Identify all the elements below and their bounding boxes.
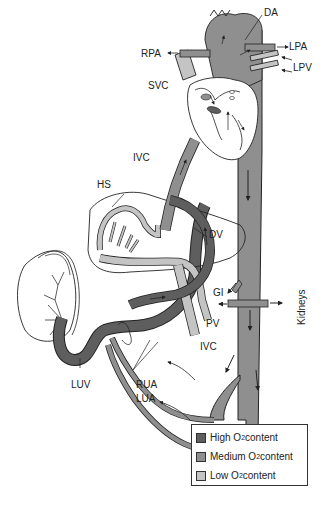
- label-lpa: LPA: [289, 42, 307, 52]
- label-dv: DV: [209, 230, 223, 240]
- label-rua: RUA: [136, 380, 157, 390]
- legend-suffix: content: [245, 432, 278, 443]
- placenta: [18, 251, 80, 342]
- legend: High O2 content Medium O2 content Low O2…: [191, 424, 308, 486]
- legend-suffix: content: [243, 470, 276, 481]
- label-rpa: RPA: [141, 49, 161, 59]
- legend-label: Medium O: [210, 451, 256, 462]
- label-svc: SVC: [148, 81, 169, 91]
- swatch-high-o2: [196, 433, 206, 443]
- legend-label: Low O: [210, 470, 239, 481]
- legend-item-high: High O2 content: [196, 428, 303, 447]
- label-ivc-upper: IVC: [133, 153, 150, 163]
- label-gi: GI: [213, 288, 224, 298]
- heart: [175, 10, 278, 160]
- label-hs: HS: [97, 180, 111, 190]
- legend-label: High O: [210, 432, 241, 443]
- swatch-low-o2: [196, 471, 206, 481]
- label-lpv: LPV: [293, 63, 312, 73]
- label-luv: LUV: [71, 380, 90, 390]
- label-da: DA: [264, 8, 278, 18]
- label-lua: LUA: [136, 394, 155, 404]
- legend-item-medium: Medium O2 content: [196, 447, 303, 466]
- legend-item-low: Low O2 content: [196, 466, 303, 485]
- label-ivc-lower: IVC: [200, 342, 217, 352]
- legend-suffix: content: [260, 451, 293, 462]
- inferior-vena-cava: [165, 140, 195, 230]
- label-kidneys: Kidneys: [296, 289, 307, 325]
- label-pv: PV: [206, 319, 219, 329]
- swatch-medium-o2: [196, 452, 206, 462]
